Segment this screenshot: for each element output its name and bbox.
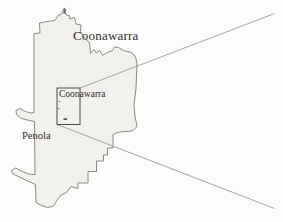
- town-label-penola: Penola: [22, 131, 51, 142]
- coonawarra-map-figure: Coonawarra Coonawarra Penola: [0, 0, 283, 222]
- inset-label-coonawarra: Coonawarra: [59, 90, 105, 100]
- map-graphic: [0, 0, 283, 222]
- inset-map-dot: [58, 108, 60, 110]
- inset-map-dash: [64, 118, 68, 120]
- callout-line-top: [80, 14, 275, 89]
- inset-map-dot: [59, 101, 61, 103]
- region-label-coonawarra: Coonawarra: [73, 29, 139, 42]
